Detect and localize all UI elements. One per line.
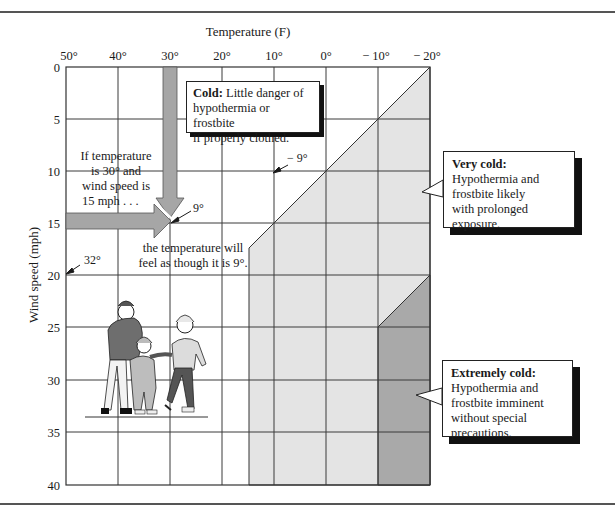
y-tick: 0 [54,61,60,75]
annotation-32: 32° [84,253,101,267]
annotation-minus-9: − 9° [287,151,308,165]
very-cold-callout: Very cold: Hypothermia and frostbite lik… [443,151,575,228]
x-tick: − 10° [362,49,390,63]
x-tick: 50° [60,49,78,63]
x-tick-labels: 50° 40° 30° 20° 10° 0° − 10° − 20° [60,49,441,63]
callout-text: Little danger of [223,86,304,100]
note-line: wind speed is [70,179,162,194]
x-tick: 20° [213,49,231,63]
x-tick: 10° [265,49,283,63]
callout-line: Cold: Little danger of [193,86,313,101]
wind-chill-chart: Temperature (F) 50° 40° 30° 20° 10° 0° −… [0,0,615,521]
example-result-note: the temperature will feel as though it i… [128,241,258,271]
x-tick: − 20° [413,49,441,63]
y-tick: 30 [48,374,61,388]
example-input-note: If temperature is 30° and wind speed is … [70,149,162,209]
callout-title: Cold: [193,86,223,100]
callout-text: Hypothermia and [451,381,564,396]
x-tick: 40° [109,49,127,63]
note-line: If temperature [70,149,162,164]
callout-text: with prolonged [452,202,566,217]
y-tick: 20 [48,269,61,283]
y-tick: 40 [48,479,61,493]
note-line: is 30° and [70,164,162,179]
y-tick: 25 [48,321,61,335]
callout-text: Hypothermia and [452,172,566,187]
y-tick: 35 [48,426,61,440]
callout-title: Extremely cold: [451,366,564,381]
x-tick: 30° [161,49,179,63]
callout-text: exposure. [452,217,566,232]
note-line: 15 mph . . . [70,194,162,209]
callout-text: if properly clothed. [193,131,313,146]
note-line: the temperature will [128,241,258,256]
y-tick: 5 [54,113,60,127]
cold-callout: Cold: Little danger of hypothermia or fr… [186,81,320,133]
callout-title: Very cold: [452,157,566,172]
x-axis-title: Temperature (F) [206,24,291,39]
note-line: feel as though it is 9°. [128,256,258,271]
extremely-cold-callout: Extremely cold: Hypothermia and frostbit… [442,360,573,437]
y-tick-labels: 0 5 10 15 20 25 30 35 40 [48,61,61,493]
y-tick: 10 [48,165,61,179]
annotation-9: 9° [193,201,204,215]
callout-text: frostbite likely [452,187,566,202]
y-axis-title: Wind speed (mph) [26,227,41,323]
x-tick: 0° [320,49,331,63]
y-tick: 15 [48,217,61,231]
callout-text: without special [451,411,564,426]
callout-text: hypothermia or frostbite [193,101,313,131]
callout-text: frostbite imminent [451,396,564,411]
callout-text: precautions. [451,426,564,441]
